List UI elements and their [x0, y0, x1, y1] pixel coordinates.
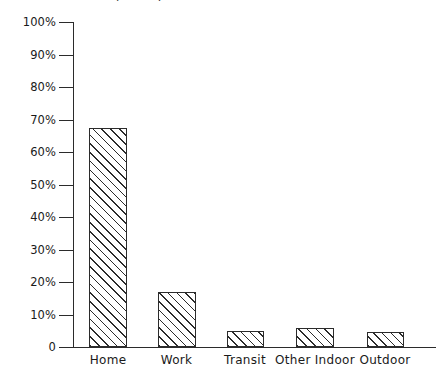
y-axis-tick-label: 80%: [0, 80, 56, 94]
y-axis-tick: [59, 282, 74, 283]
bar-chart: Share of time spent by location 100%90%8…: [0, 0, 446, 379]
y-axis-tick-label-text: 70%: [30, 113, 56, 127]
y-axis-tick-label-text: 50%: [30, 178, 56, 192]
x-axis-label: Home: [90, 353, 127, 367]
y-axis-tick: [59, 120, 74, 121]
y-axis-tick-label: 30%: [0, 243, 56, 257]
y-axis-tick-label: 90%: [0, 48, 56, 62]
bar: [367, 332, 404, 347]
y-axis-tick: [59, 55, 74, 56]
bar: [227, 331, 264, 347]
y-axis-tick: [59, 250, 74, 251]
x-axis-label: Work: [161, 353, 193, 367]
y-axis-tick-label-text: 30%: [30, 243, 56, 257]
y-axis-tick: [59, 315, 74, 316]
y-axis-tick-label-text: 80%: [30, 80, 56, 94]
x-axis-label: Other Indoor: [275, 353, 355, 367]
y-axis-tick-label: 0: [0, 340, 56, 354]
x-axis-label: Outdoor: [359, 353, 410, 367]
bar: [158, 292, 196, 347]
y-axis-tick-label: 100%: [0, 15, 56, 29]
y-axis-tick-label-text: 60%: [30, 145, 56, 159]
y-axis-tick: [59, 22, 74, 23]
y-axis-tick: [59, 87, 74, 88]
y-axis-tick-label-text: 10%: [30, 308, 56, 322]
y-axis-tick-label: 20%: [0, 275, 56, 289]
y-axis-tick-label-text: 20%: [30, 275, 56, 289]
y-axis-tick-label-text: 90%: [30, 48, 56, 62]
y-axis-tick: [59, 185, 74, 186]
y-axis-tick-label: 50%: [0, 178, 56, 192]
bar: [296, 328, 334, 348]
y-axis-tick-label: 60%: [0, 145, 56, 159]
y-axis-tick-label-text: 0: [49, 340, 56, 354]
chart-title: Share of time spent by location: [22, 0, 216, 1]
y-axis-tick-label: 40%: [0, 210, 56, 224]
y-axis-tick-label-text: 100%: [23, 15, 56, 29]
y-axis-tick: [59, 217, 74, 218]
bar: [89, 128, 127, 347]
y-axis-tick-label: 70%: [0, 113, 56, 127]
x-axis-line: [59, 347, 436, 348]
y-axis-tick-label: 10%: [0, 308, 56, 322]
y-axis-tick: [59, 152, 74, 153]
x-axis-label: Transit: [224, 353, 266, 367]
y-axis-tick-label-text: 40%: [30, 210, 56, 224]
